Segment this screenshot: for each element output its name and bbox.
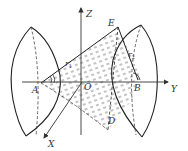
point-d-label: D [107,116,115,126]
y-axis-label: Y [171,84,178,94]
radius-r1-label: r1 [65,59,72,69]
point-e-label: E [107,18,115,28]
x-axis-label: X [47,139,55,149]
point-b-label: B [133,83,141,93]
geometry-figure: Z Y X A B E D O r1 r2 [0,0,188,151]
z-axis-label: Z [85,9,93,19]
diagram-canvas: Z Y X A B E D O r1 r2 [0,0,188,151]
origin-o-label: O [84,82,92,92]
point-a-label: A [31,85,39,95]
